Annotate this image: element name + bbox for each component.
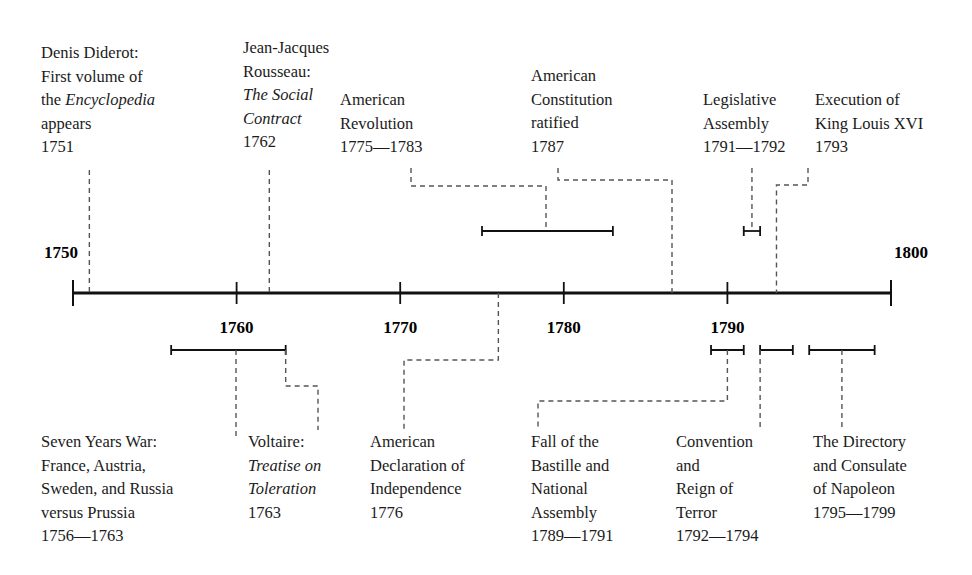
event-label-line: American	[531, 64, 613, 88]
event-label-line: Assembly	[531, 501, 614, 525]
event-label-diderot: Denis Diderot:First volume ofthe Encyclo…	[41, 41, 155, 159]
timeline-figure: Denis Diderot:First volume ofthe Encyclo…	[0, 0, 972, 575]
event-label-line: 1762	[243, 130, 329, 154]
event-label-fall-of-bastille: Fall of theBastille andNationalAssembly1…	[531, 430, 614, 548]
event-label-line: Declaration of	[370, 454, 465, 478]
event-label-declaration-independence: AmericanDeclaration ofIndependence1776	[370, 430, 465, 524]
event-label-line: appears	[41, 112, 155, 136]
event-label-line: Toleration	[248, 477, 321, 501]
event-label-line: American	[370, 430, 465, 454]
event-label-line: Contract	[243, 107, 329, 131]
event-label-line: Reign of	[676, 477, 759, 501]
event-label-execution-louis-xvi: Execution ofKing Louis XVI1793	[815, 88, 923, 159]
event-label-line: 1793	[815, 135, 923, 159]
event-label-line: Revolution	[340, 112, 423, 136]
connector-fall-of-bastille	[538, 350, 727, 430]
event-label-american-revolution: AmericanRevolution1775—1783	[340, 88, 423, 159]
event-label-legislative-assembly: LegislativeAssembly1791—1792	[703, 88, 786, 159]
event-label-convention-reign-of-terror: ConventionandReign ofTerror1792—1794	[676, 430, 759, 548]
event-label-line: The Directory	[813, 430, 907, 454]
event-label-line: and	[676, 454, 759, 478]
event-label-line: of Napoleon	[813, 477, 907, 501]
event-label-line: 1787	[531, 135, 613, 159]
event-label-line: 1791—1792	[703, 135, 786, 159]
event-label-line: Jean-Jacques	[243, 36, 329, 60]
event-label-line: Legislative	[703, 88, 786, 112]
event-label-line: 1789—1791	[531, 524, 614, 548]
event-label-line: and Consulate	[813, 454, 907, 478]
event-label-line: King Louis XVI	[815, 112, 923, 136]
event-label-line: Fall of the	[531, 430, 614, 454]
axis-year-label-1770: 1770	[383, 318, 417, 338]
event-label-line: 1756—1763	[41, 524, 173, 548]
axis-year-label-1780: 1780	[547, 318, 581, 338]
event-label-line: The Social	[243, 83, 329, 107]
event-label-line: 1751	[41, 135, 155, 159]
event-label-constitution-ratified: AmericanConstitutionratified1787	[531, 64, 613, 158]
event-label-line: National	[531, 477, 614, 501]
event-label-line: Convention	[676, 430, 759, 454]
event-label-line: First volume of	[41, 65, 155, 89]
event-label-line: 1775—1783	[340, 135, 423, 159]
event-label-line: Independence	[370, 477, 465, 501]
event-label-line: Voltaire:	[248, 430, 321, 454]
event-label-line: American	[340, 88, 423, 112]
event-label-line: Rousseau:	[243, 60, 329, 84]
event-label-line: 1792—1794	[676, 524, 759, 548]
connector-voltaire-toleration	[286, 350, 318, 430]
event-label-seven-years-war: Seven Years War:France, Austria,Sweden, …	[41, 430, 173, 548]
event-label-line: Seven Years War:	[41, 430, 173, 454]
event-label-directory-consulate: The Directoryand Consulateof Napoleon179…	[813, 430, 907, 524]
event-label-line: France, Austria,	[41, 454, 173, 478]
event-label-line: 1795—1799	[813, 501, 907, 525]
axis-year-label-1800: 1800	[894, 243, 928, 263]
axis-year-label-1790: 1790	[710, 318, 744, 338]
event-label-line: 1776	[370, 501, 465, 525]
connector-american-revolution	[411, 168, 546, 231]
event-label-line: Assembly	[703, 112, 786, 136]
event-label-rousseau: Jean-JacquesRousseau:The SocialContract1…	[243, 36, 329, 154]
axis-year-label-1760: 1760	[220, 318, 254, 338]
event-label-line: Execution of	[815, 88, 923, 112]
event-label-voltaire-toleration: Voltaire:Treatise onToleration1763	[248, 430, 321, 524]
event-label-line: Treatise on	[248, 454, 321, 478]
event-label-line: Terror	[676, 501, 759, 525]
event-label-line: Constitution	[531, 88, 613, 112]
connector-declaration-independence	[404, 293, 498, 430]
event-label-line: Bastille and	[531, 454, 614, 478]
event-label-line: 1763	[248, 501, 321, 525]
event-label-line: Denis Diderot:	[41, 41, 155, 65]
event-label-line: Sweden, and Russia	[41, 477, 173, 501]
event-label-line: versus Prussia	[41, 501, 173, 525]
axis-year-label-1750: 1750	[44, 243, 78, 263]
connector-execution-louis-xvi	[776, 168, 808, 293]
event-label-line: ratified	[531, 111, 613, 135]
event-label-line: the Encyclopedia	[41, 88, 155, 112]
